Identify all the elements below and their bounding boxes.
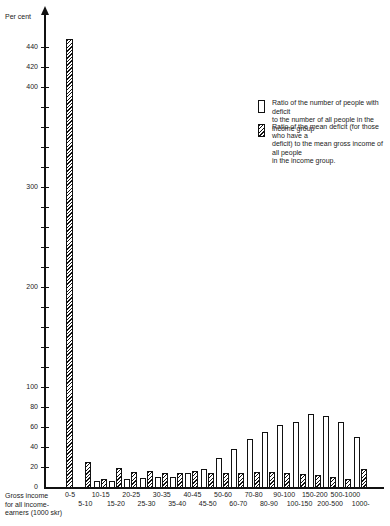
- bar-deficit-ratio: [284, 473, 290, 488]
- x-tick-label: 35-40: [168, 500, 186, 507]
- y-axis: [44, 12, 46, 488]
- x-tick-label: 15-20: [107, 500, 125, 507]
- bar-deficit-ratio: [85, 462, 91, 488]
- y-tick: [41, 347, 49, 348]
- y-tick-label: 400: [8, 83, 38, 90]
- bar-people-ratio: [201, 469, 207, 488]
- y-tick-label: 60: [8, 423, 38, 430]
- y-tick: [41, 427, 49, 428]
- bar-deficit-ratio: [238, 473, 244, 488]
- y-tick: [41, 67, 49, 68]
- y-tick: [41, 367, 49, 368]
- x-tick-label: 0-5: [65, 491, 75, 498]
- bar-deficit-ratio: [254, 472, 260, 488]
- bar-deficit-ratio: [116, 468, 122, 488]
- bar-deficit-ratio: [66, 39, 73, 488]
- y-tick: [41, 127, 49, 128]
- x-tick-label: 70-80: [245, 491, 263, 498]
- x-tick-label: 20-25: [122, 491, 140, 498]
- bar-deficit-ratio: [345, 479, 351, 488]
- bar-deficit-ratio: [208, 473, 214, 488]
- bar-deficit-ratio: [330, 477, 336, 488]
- y-tick-label: 200: [8, 283, 38, 290]
- y-tick-label: 20: [8, 463, 38, 470]
- x-tick-label: 500-1000: [331, 491, 361, 498]
- bar-deficit-ratio: [361, 469, 367, 488]
- legend-label-2: Ratio of the mean deficit (for those who…: [272, 123, 388, 166]
- bar-deficit-ratio: [177, 473, 183, 488]
- y-tick: [41, 267, 49, 268]
- x-tick-label: 200-500: [317, 500, 343, 507]
- x-tick-label: 50-60: [214, 491, 232, 498]
- y-tick: [41, 387, 49, 388]
- bar-people-ratio: [185, 473, 191, 488]
- x-tick-label: 40-45: [183, 491, 201, 498]
- x-tick-label: 1000-: [352, 500, 370, 507]
- x-tick-label: 60-70: [229, 500, 247, 507]
- y-tick: [41, 467, 49, 468]
- y-tick: [41, 47, 49, 48]
- x-tick-label: 90-100: [273, 491, 295, 498]
- y-tick-label: 80: [8, 403, 38, 410]
- bar-people-ratio: [293, 422, 299, 488]
- x-tick-label: 25-30: [138, 500, 156, 507]
- y-tick: [41, 407, 49, 408]
- y-tick: [41, 287, 49, 288]
- x-axis-title: Gross income for all income- earners (10…: [5, 492, 62, 518]
- bar-people-ratio: [216, 458, 222, 488]
- bar-people-ratio: [262, 432, 268, 488]
- bar-people-ratio: [308, 414, 314, 488]
- bar-people-ratio: [354, 437, 360, 488]
- y-tick: [41, 167, 49, 168]
- y-tick: [41, 207, 49, 208]
- legend-swatch-hatched: [258, 124, 265, 137]
- bar-people-ratio: [155, 477, 161, 488]
- y-tick: [41, 247, 49, 248]
- x-tick-label: 5-10: [78, 500, 92, 507]
- y-tick-label: 300: [8, 183, 38, 190]
- bar-people-ratio: [231, 449, 237, 488]
- bar-deficit-ratio: [315, 475, 321, 488]
- y-tick: [41, 147, 49, 148]
- bar-deficit-ratio: [131, 472, 137, 488]
- y-tick-label: 0: [8, 483, 38, 490]
- y-tick: [41, 227, 49, 228]
- bar-people-ratio: [94, 481, 100, 488]
- bar-people-ratio: [247, 439, 253, 488]
- y-tick: [41, 447, 49, 448]
- y-tick: [41, 327, 49, 328]
- y-tick: [41, 307, 49, 308]
- bar-deficit-ratio: [162, 473, 168, 488]
- bar-people-ratio: [170, 477, 176, 488]
- y-tick: [41, 107, 49, 108]
- y-tick-label: 100: [8, 383, 38, 390]
- y-tick: [41, 187, 49, 188]
- y-axis-label: Per cent: [5, 13, 31, 20]
- legend-swatch-white: [258, 100, 265, 113]
- x-tick-label: 10-15: [92, 491, 110, 498]
- bar-deficit-ratio: [101, 479, 107, 488]
- bar-deficit-ratio: [147, 471, 153, 488]
- bar-deficit-ratio: [192, 471, 198, 488]
- x-tick-label: 30-35: [153, 491, 171, 498]
- bar-deficit-ratio: [269, 472, 275, 488]
- x-tick-label: 100-150: [287, 500, 313, 507]
- x-tick-label: 80-90: [260, 500, 278, 507]
- x-tick-label: 45-50: [199, 500, 217, 507]
- bar-people-ratio: [323, 416, 329, 488]
- bar-deficit-ratio: [300, 474, 306, 488]
- bar-people-ratio: [140, 478, 146, 488]
- bar-deficit-ratio: [223, 473, 229, 488]
- y-tick-label: 440: [8, 43, 38, 50]
- bar-people-ratio: [338, 422, 344, 488]
- y-tick-label: 420: [8, 63, 38, 70]
- x-tick-label: 150-200: [302, 491, 328, 498]
- y-tick: [41, 87, 49, 88]
- bar-people-ratio: [277, 425, 283, 488]
- y-tick-label: 40: [8, 443, 38, 450]
- bar-people-ratio: [109, 481, 115, 488]
- bar-people-ratio: [124, 479, 130, 488]
